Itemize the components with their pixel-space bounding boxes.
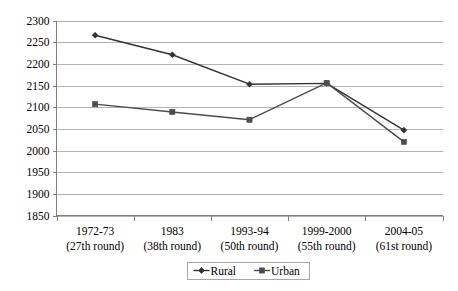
chart-canvas: 1850190019502000205021002150220022502300… bbox=[0, 0, 458, 291]
y-tick-label-2150: 2150 bbox=[27, 80, 50, 92]
y-tick-label-1900: 1900 bbox=[27, 188, 50, 200]
y-tick-label-2250: 2250 bbox=[27, 36, 50, 48]
x-tick-label-round-4: (61st round) bbox=[376, 240, 433, 253]
legend-marker-urban bbox=[259, 268, 264, 273]
y-tick-label-2200: 2200 bbox=[27, 58, 50, 70]
x-tick-label-round-3: (55th round) bbox=[298, 240, 356, 253]
x-tick-label-year-2: 1993-94 bbox=[230, 225, 269, 237]
data-point-urban-0 bbox=[93, 102, 98, 107]
y-tick-label-2050: 2050 bbox=[27, 123, 50, 135]
x-tick-label-year-4: 2004-05 bbox=[385, 225, 424, 237]
x-tick-label-round-0: (27th round) bbox=[66, 240, 124, 253]
y-tick-label-1850: 1850 bbox=[27, 210, 50, 222]
y-tick-label-1950: 1950 bbox=[27, 166, 50, 178]
x-tick-label-year-0: 1972-73 bbox=[76, 225, 115, 237]
y-tick-label-2000: 2000 bbox=[27, 145, 50, 157]
legend-label-urban: Urban bbox=[271, 265, 300, 277]
legend-label-rural: Rural bbox=[211, 265, 237, 277]
chart-legend: RuralUrban bbox=[188, 262, 310, 279]
data-point-urban-4 bbox=[401, 139, 406, 144]
x-tick-label-round-1: (38th round) bbox=[143, 240, 201, 253]
data-point-urban-2 bbox=[247, 117, 252, 122]
y-tick-label-2100: 2100 bbox=[27, 101, 50, 113]
x-tick-label-year-3: 1999-2000 bbox=[302, 225, 352, 237]
y-tick-label-2300: 2300 bbox=[27, 15, 50, 27]
data-point-urban-1 bbox=[170, 109, 175, 114]
x-tick-label-year-1: 1983 bbox=[161, 225, 184, 237]
x-tick-label-round-2: (50th round) bbox=[221, 240, 279, 253]
data-point-urban-3 bbox=[324, 80, 329, 85]
line-chart: 1850190019502000205021002150220022502300… bbox=[0, 0, 458, 291]
